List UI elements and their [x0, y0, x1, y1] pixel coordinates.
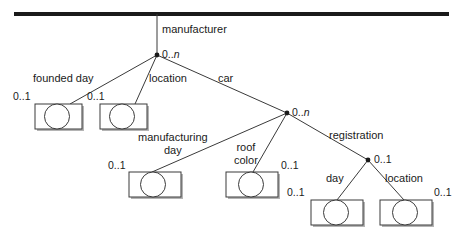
- cardinality-manufacturing-day: 0..1: [108, 159, 126, 172]
- edge-label-location-top: location: [149, 72, 187, 85]
- node-dot-manufacturer[interactable]: [155, 53, 160, 58]
- leaf-node-location-top[interactable]: [100, 104, 149, 131]
- leaf-node-manufacturing-day[interactable]: [129, 172, 183, 199]
- cardinality-registration: 0..1: [374, 153, 392, 166]
- cardinality-roof-color: 0..1: [281, 159, 299, 172]
- edge-label-color-line2: color: [234, 154, 258, 167]
- edge-label-manufacturer: manufacturer: [162, 23, 227, 36]
- edge-label-roof-line1: roof: [234, 141, 258, 154]
- cardinality-car: 0..n: [292, 106, 310, 119]
- cardinality-car-n: n: [304, 106, 310, 118]
- diagram-graphics: [0, 0, 460, 239]
- node-dot-registration[interactable]: [366, 158, 371, 163]
- cardinality-car-text: 0..: [292, 106, 304, 118]
- edge-label-manufacturing-line2: day: [138, 144, 208, 157]
- edge-label-roof-color: roof color: [234, 141, 258, 167]
- edge-label-car: car: [218, 72, 233, 85]
- leaf-node-founded-day[interactable]: [35, 104, 84, 131]
- cardinality-registration-location: 0..1: [434, 186, 452, 199]
- diagram-canvas: manufacturer 0..n founded day 0..1 locat…: [0, 0, 460, 239]
- leaf-node-registration-day[interactable]: [311, 200, 365, 227]
- edge-label-registration-day: day: [326, 172, 344, 185]
- edge-label-manufacturing-day: manufacturing day: [138, 131, 208, 157]
- cardinality-manufacturer-text: 0..: [162, 48, 174, 60]
- cardinality-founded-day: 0..1: [13, 90, 31, 103]
- cardinality-location-top: 0..1: [87, 90, 105, 103]
- edge-label-registration-location: location: [385, 172, 423, 185]
- edge-label-manufacturing-line1: manufacturing: [138, 131, 208, 144]
- edge-label-registration: registration: [329, 129, 383, 142]
- leaf-node-roof-color[interactable]: [226, 172, 280, 199]
- cardinality-manufacturer-n: n: [174, 48, 180, 60]
- leaf-node-registration-location[interactable]: [380, 200, 434, 227]
- cardinality-manufacturer: 0..n: [162, 48, 180, 61]
- cardinality-registration-day: 0..1: [287, 186, 305, 199]
- edge-label-founded-day: founded day: [33, 72, 94, 85]
- node-dot-car[interactable]: [285, 111, 290, 116]
